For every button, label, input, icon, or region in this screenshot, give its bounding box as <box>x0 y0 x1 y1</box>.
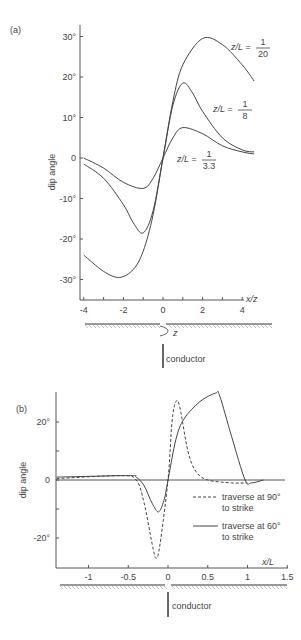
svg-text:z/L =: z/L = <box>212 104 233 114</box>
svg-text:-2: -2 <box>119 305 127 315</box>
svg-text:3.3: 3.3 <box>203 161 216 171</box>
panel-a: (a) dip angle 30°20°10°0-10°-20°-30°-4-2… <box>10 25 272 368</box>
svg-text:-1: -1 <box>84 572 92 582</box>
svg-text:0: 0 <box>45 475 50 485</box>
svg-text:1: 1 <box>206 149 211 159</box>
svg-text:z/L =: z/L = <box>230 42 251 52</box>
svg-text:1: 1 <box>245 572 250 582</box>
x-axis-label-a: x/z <box>245 294 258 304</box>
svg-text:30°: 30° <box>62 32 76 42</box>
conductor-a-label: conductor <box>166 354 206 364</box>
legend-b: traverse at 90°to striketraverse at 60°t… <box>193 492 281 542</box>
svg-text:20: 20 <box>258 49 268 59</box>
svg-text:-0.5: -0.5 <box>120 572 136 582</box>
axes-a: 30°20°10°0-10°-20°-30°-4-2024 <box>59 25 244 315</box>
panel-b: (b) dip angle 20°0-20°-1-0.500.511.5 tra… <box>16 391 294 617</box>
svg-text:traverse at 60°: traverse at 60° <box>222 521 281 531</box>
svg-text:0: 0 <box>165 572 170 582</box>
y-axis-label-a: dip angle <box>47 154 57 191</box>
svg-text:4: 4 <box>240 305 245 315</box>
axes-b: 20°0-20°-1-0.500.511.5 <box>33 392 293 582</box>
panel-b-label: (b) <box>16 404 27 414</box>
series-labels-a: z/L =120z/L =18z/L =13.3 <box>176 37 270 171</box>
svg-text:0: 0 <box>160 305 165 315</box>
svg-text:2: 2 <box>200 305 205 315</box>
svg-text:8: 8 <box>242 111 247 121</box>
svg-text:1: 1 <box>260 37 265 47</box>
curve-0 <box>84 37 254 277</box>
x-axis-label-b: x/L <box>261 557 274 567</box>
figure: (a) dip angle 30°20°10°0-10°-20°-30°-4-2… <box>0 0 301 640</box>
svg-text:-30°: -30° <box>59 275 76 285</box>
svg-text:20°: 20° <box>62 72 76 82</box>
svg-text:-20°: -20° <box>59 234 76 244</box>
svg-text:to strike: to strike <box>222 503 254 513</box>
conductor-b-label: conductor <box>172 601 212 611</box>
svg-text:0.5: 0.5 <box>201 572 214 582</box>
curve-2 <box>84 128 254 189</box>
curves-a <box>84 37 254 277</box>
depth-label: z <box>172 328 178 338</box>
y-axis-label-b: dip angle <box>18 462 28 499</box>
ground-surface-a <box>85 324 272 336</box>
curve-0 <box>57 400 248 558</box>
svg-text:-10°: -10° <box>59 194 76 204</box>
svg-text:0: 0 <box>71 153 76 163</box>
svg-text:-20°: -20° <box>33 533 50 543</box>
svg-text:10°: 10° <box>62 113 76 123</box>
svg-text:-4: -4 <box>80 305 88 315</box>
ground-surface-b <box>60 585 287 589</box>
svg-text:20°: 20° <box>36 417 50 427</box>
svg-text:1: 1 <box>242 99 247 109</box>
svg-text:traverse at 90°: traverse at 90° <box>222 492 281 502</box>
svg-text:to strike: to strike <box>222 532 254 542</box>
svg-text:1.5: 1.5 <box>281 572 294 582</box>
svg-text:z/L =: z/L = <box>176 154 197 164</box>
panel-a-label: (a) <box>10 25 21 35</box>
